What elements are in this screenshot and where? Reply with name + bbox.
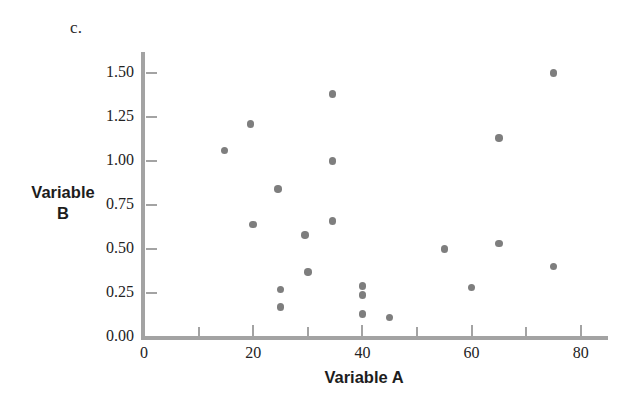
data-point — [304, 268, 312, 276]
y-axis-tick-label: 0.50 — [72, 239, 134, 257]
y-axis-tick — [146, 292, 157, 294]
x-axis-tick-label: 80 — [556, 344, 606, 362]
scatter-plot-figure: c. Variable B Variable A 0.000.250.500.7… — [0, 0, 622, 408]
x-axis-tick — [143, 325, 145, 336]
x-axis-tick-label: 40 — [337, 344, 387, 362]
data-point — [359, 282, 367, 290]
y-axis-tick — [146, 160, 157, 162]
data-point — [495, 240, 503, 248]
y-axis-tick-label: 0.75 — [72, 195, 134, 213]
x-axis-minor-tick — [525, 327, 527, 336]
x-axis-tick-label: 60 — [447, 344, 497, 362]
data-point — [495, 134, 503, 142]
x-axis-tick-label: 0 — [119, 344, 169, 362]
data-point — [441, 245, 449, 253]
y-axis-tick — [146, 204, 157, 206]
data-point — [468, 284, 476, 292]
x-axis-line — [141, 336, 608, 340]
data-point — [301, 231, 309, 239]
y-axis-tick-label: 1.50 — [72, 63, 134, 81]
data-point — [550, 69, 558, 77]
y-axis-tick — [146, 248, 157, 250]
x-axis-tick — [361, 325, 363, 336]
x-axis-tick — [580, 325, 582, 336]
data-point — [249, 221, 257, 229]
y-axis-tick-label: 0.00 — [72, 327, 134, 345]
plot-area: 0.000.250.500.751.001.251.50020406080 — [0, 0, 622, 408]
data-point — [221, 147, 229, 155]
data-point — [274, 185, 282, 193]
x-axis-tick — [471, 325, 473, 336]
data-point — [550, 263, 558, 271]
x-axis-tick — [252, 325, 254, 336]
data-point — [247, 120, 255, 128]
data-point — [277, 303, 285, 311]
x-axis-tick-label: 20 — [228, 344, 278, 362]
y-axis-tick — [146, 336, 157, 338]
x-axis-minor-tick — [198, 327, 200, 336]
data-point — [329, 157, 337, 165]
y-axis-tick-label: 1.25 — [72, 107, 134, 125]
data-point — [329, 217, 337, 225]
x-axis-minor-tick — [416, 327, 418, 336]
y-axis-tick — [146, 72, 157, 74]
y-axis-tick-label: 1.00 — [72, 151, 134, 169]
data-point — [386, 314, 394, 322]
y-axis-tick — [146, 116, 157, 118]
data-point — [359, 291, 367, 299]
data-point — [359, 310, 367, 318]
y-axis-tick-label: 0.25 — [72, 283, 134, 301]
data-point — [329, 90, 337, 98]
data-point — [277, 286, 285, 294]
y-axis-line — [141, 52, 145, 340]
x-axis-minor-tick — [307, 327, 309, 336]
